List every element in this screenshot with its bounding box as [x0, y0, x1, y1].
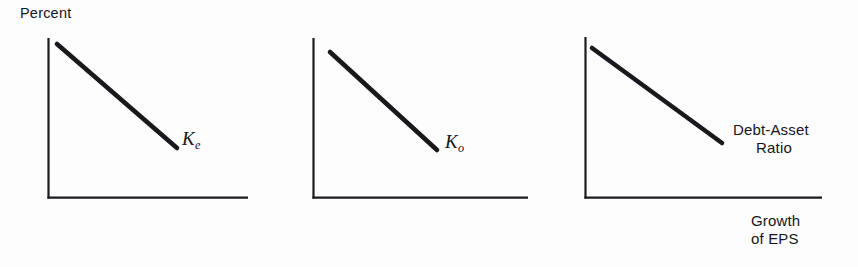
panel2-curve-label-base: K	[445, 131, 458, 152]
panel3-x-axis-title-line1: Growth	[751, 212, 800, 229]
panel-overall-cost-of-capital: Ko	[286, 0, 572, 267]
panel2-curve-label-sub: o	[458, 141, 464, 155]
panel3-curve-label-line2: Ratio	[733, 139, 833, 157]
panel3-curve-debt-asset-line	[592, 48, 722, 143]
panel3-curve-label-line1: Debt-Asset	[733, 121, 809, 138]
panel2-curve-ko-line	[330, 52, 437, 150]
panel1-curve-label-sub: e	[195, 138, 200, 152]
panel2-axes-and-curve	[286, 0, 572, 267]
panel1-curve-label-base: K	[182, 128, 195, 149]
panel1-curve-ke-line	[57, 44, 177, 148]
panel3-x-axis-title-line2: of EPS	[751, 230, 800, 248]
panel-cost-of-equity: Percent Ke	[0, 0, 286, 267]
panel2-curve-label-ko: Ko	[445, 131, 464, 153]
panel1-axes-and-curve	[0, 0, 286, 267]
figure-three-panel-capital-structure: Percent Ke Ko Debt-AssetRatio Growthof E…	[0, 0, 858, 267]
panel3-curve-label-debt-asset-ratio: Debt-AssetRatio	[733, 121, 833, 156]
panel1-curve-label-ke: Ke	[182, 128, 200, 150]
panel3-x-axis-title: Growthof EPS	[751, 212, 800, 247]
panel-debt-asset-ratio: Debt-AssetRatio Growthof EPS	[572, 0, 858, 267]
